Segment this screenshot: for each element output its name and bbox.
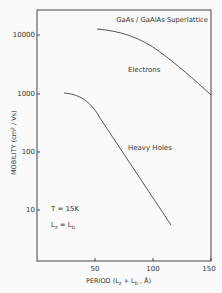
x-tick-label: 100 (146, 265, 159, 273)
heavy-holes-curve (64, 93, 171, 225)
x-tick-label: 150 (202, 265, 215, 273)
x-tick-label: 50 (91, 265, 100, 273)
chart-title: GaAs / GaAlAs Superlattice (116, 16, 208, 24)
y-tick-label: 10 (26, 206, 35, 214)
y-tick-label: 10000 (13, 31, 35, 39)
y-tick-label: 1000 (17, 90, 35, 98)
electrons-label: Electrons (128, 66, 161, 74)
layer-annotation: Lz = Lb (51, 221, 75, 230)
heavy-holes-label: Heavy Holes (128, 144, 172, 152)
electrons-curve (97, 29, 211, 95)
y-tick-label: 100 (22, 148, 35, 156)
y-axis-label: MOBILITY (cm2 / Vs) (10, 110, 19, 175)
temperature-annotation: T = 15K (50, 205, 79, 213)
x-axis-label: PERIOD (Lz + Lb , Å) (86, 276, 151, 286)
x-axis: 50 100 150 (91, 258, 216, 273)
mobility-chart: 10000 1000 100 10 50 100 150 PERIOD (Lz … (0, 0, 222, 293)
